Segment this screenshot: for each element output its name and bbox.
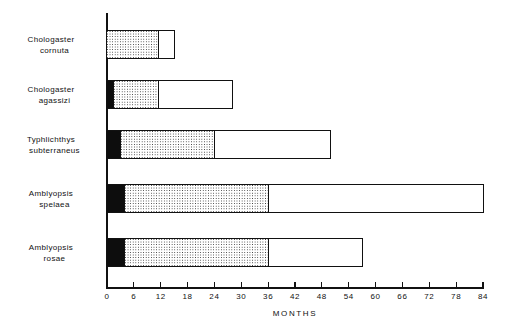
bar-segment-stippled-segment: [107, 31, 158, 58]
x-tick: [187, 282, 188, 288]
category-label-species: cornuta: [2, 45, 100, 56]
x-tick-label: 0: [104, 292, 109, 301]
x-tick-label: 6: [131, 292, 136, 301]
x-tick: [429, 282, 430, 288]
x-tick: [241, 282, 242, 288]
x-tick: [268, 282, 269, 288]
bar-segment-open-segment: [215, 131, 331, 158]
category-label-genus: Typhlichthys: [2, 134, 100, 145]
category-label-genus: Chologaster: [2, 34, 100, 45]
x-tick-label: 60: [371, 292, 381, 301]
category-label: Chologastercornuta: [2, 34, 100, 56]
bar-segment-open-segment: [269, 185, 484, 212]
x-tick-label: 78: [451, 292, 461, 301]
x-tick-label: 18: [183, 292, 193, 301]
bar: [106, 80, 233, 109]
x-tick: [456, 282, 457, 288]
x-tick-label: 36: [263, 292, 273, 301]
x-tick: [402, 282, 403, 288]
x-tick: [106, 282, 107, 288]
x-tick: [321, 282, 322, 288]
bar-chart: 0612182430364248546066727884 Chologaster…: [0, 0, 505, 330]
category-label: Chologasteragassizi: [2, 84, 100, 106]
bar: [106, 30, 174, 59]
bar: [106, 184, 483, 213]
category-label: Amblyopsisrosae: [2, 242, 100, 264]
bar-segment-black-segment: [107, 185, 125, 212]
x-tick: [214, 282, 215, 288]
x-tick: [375, 282, 376, 288]
x-axis-title: MONTHS: [107, 309, 483, 318]
category-label-species: spelaea: [2, 199, 100, 210]
x-tick-label: 54: [344, 292, 354, 301]
bar-segment-stippled-segment: [125, 185, 268, 212]
x-tick-label: 72: [424, 292, 434, 301]
bar: [106, 130, 331, 159]
bar-segment-stippled-segment: [114, 81, 159, 108]
x-tick-label: 24: [209, 292, 219, 301]
x-tick-label: 42: [290, 292, 300, 301]
bar-segment-open-segment: [159, 81, 233, 108]
category-label-genus: Amblyopsis: [2, 188, 100, 199]
bar: [106, 238, 362, 267]
category-label: Typhlichthyssubterraneus: [2, 134, 100, 156]
x-tick: [348, 282, 349, 288]
bar-segment-stippled-segment: [125, 239, 268, 266]
bar-segment-black-segment: [107, 81, 114, 108]
x-tick-label: 12: [156, 292, 166, 301]
bar-segment-black-segment: [107, 131, 120, 158]
x-tick-label: 84: [478, 292, 488, 301]
x-tick-label: 30: [236, 292, 246, 301]
x-tick: [294, 282, 295, 288]
category-label-genus: Amblyopsis: [2, 242, 100, 253]
x-tick: [133, 282, 134, 288]
x-tick-label: 48: [317, 292, 327, 301]
bar-segment-open-segment: [269, 239, 363, 266]
x-tick: [160, 282, 161, 288]
category-label: Amblyopsisspelaea: [2, 188, 100, 210]
category-label-genus: Chologaster: [2, 84, 100, 95]
x-tick-label: 66: [397, 292, 407, 301]
category-label-species: agassizi: [2, 95, 100, 106]
bar-segment-stippled-segment: [121, 131, 215, 158]
category-label-species: rosae: [2, 253, 100, 264]
bar-segment-open-segment: [159, 31, 175, 58]
bar-segment-black-segment: [107, 239, 125, 266]
category-label-species: subterraneus: [2, 145, 100, 156]
x-tick: [482, 282, 483, 288]
